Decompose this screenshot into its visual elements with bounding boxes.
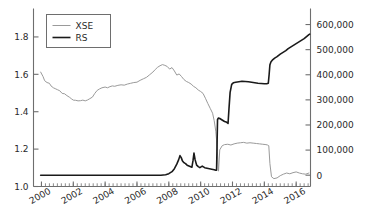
x-axis-tick-label: 2008 [155,186,180,206]
line-chart: 2000200220042006200820102012201420161.01… [0,0,369,221]
y-right-tick-label: 0 [317,171,323,181]
y-right-tick-label: 400,000 [317,70,354,80]
y-left-tick-label: 1.6 [14,70,29,80]
x-axis-tick-label: 2010 [187,186,212,206]
chart-container: 2000200220042006200820102012201420161.01… [0,0,369,221]
y-right-tick-label: 600,000 [317,20,354,30]
y-left-tick-label: 1.2 [14,144,28,154]
y-left-tick-label: 1.4 [14,107,29,117]
x-axis-tick-label: 2000 [28,186,53,206]
y-left-tick-label: 1.0 [14,182,29,192]
y-left-tick-label: 1.8 [14,32,29,42]
y-right-tick-label: 300,000 [317,95,354,105]
y-right-tick-label: 500,000 [317,45,354,55]
x-axis-tick-label: 2014 [250,186,275,206]
legend-label-xse: XSE [76,21,94,31]
y-right-tick-label: 100,000 [317,145,354,155]
x-axis-tick-label: 2012 [219,186,244,206]
x-axis-tick-label: 2004 [91,186,116,206]
legend-label-rs: RS [76,33,88,43]
x-axis-tick-label: 2006 [123,186,148,206]
y-right-tick-label: 200,000 [317,120,354,130]
x-axis-tick-label: 2016 [282,186,307,206]
x-axis-tick-label: 2002 [59,186,84,206]
